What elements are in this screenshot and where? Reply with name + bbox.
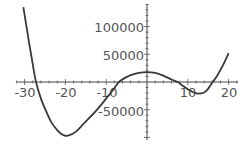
x-tick-label-neg30: -30 — [14, 85, 35, 100]
x-tick-label-neg20: -20 — [55, 85, 76, 100]
function-plot: -30 -20 -10 10 20 100000 50000 -50000 — [0, 0, 240, 146]
y-tick-label-100000: 100000 — [94, 20, 144, 35]
x-tick-label-20: 20 — [221, 85, 238, 100]
y-tick-label-neg50000: -50000 — [98, 104, 144, 119]
x-axis — [16, 79, 238, 85]
tick-labels: -30 -20 -10 10 20 100000 50000 -50000 — [14, 20, 237, 119]
y-tick-label-50000: 50000 — [103, 48, 144, 63]
